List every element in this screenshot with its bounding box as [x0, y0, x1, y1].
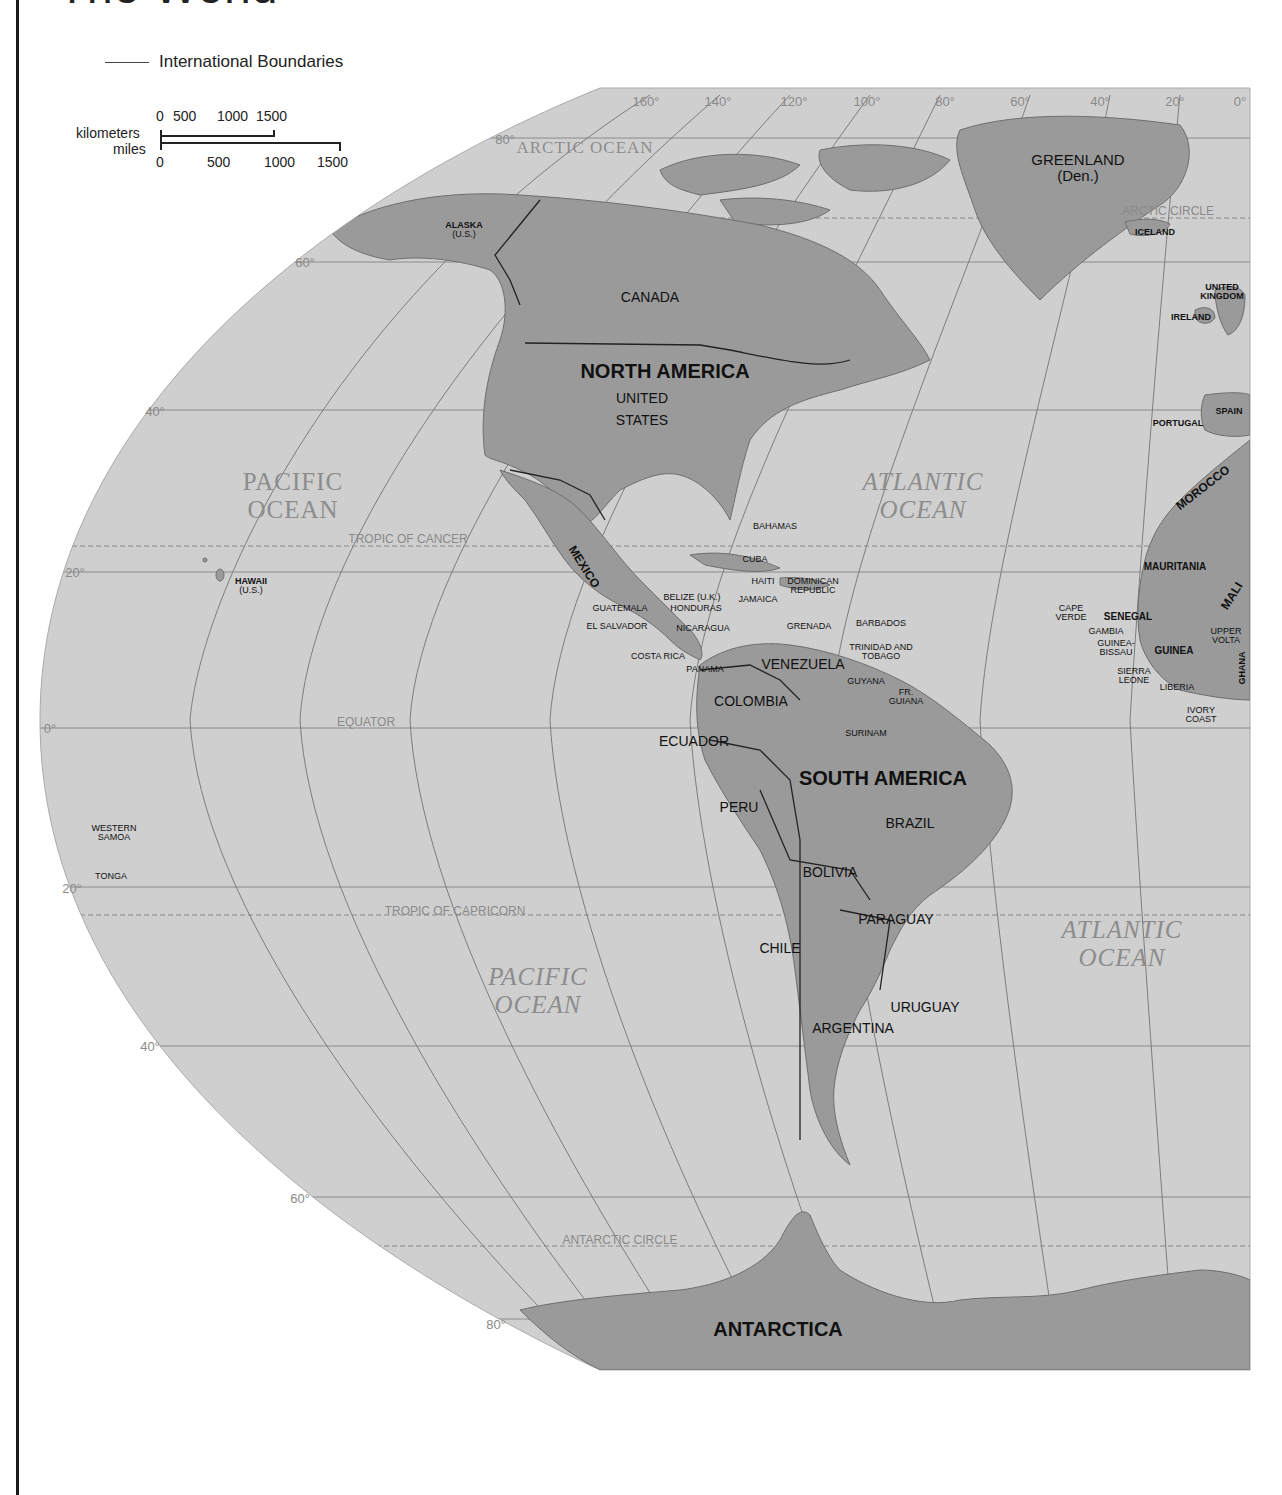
lon-label: 60° [1010, 94, 1030, 109]
ocean-line: OCEAN [862, 495, 983, 523]
lon-label: 100° [854, 94, 881, 109]
lon-label: 40° [1090, 94, 1110, 109]
north-america-label: NORTH AMERICA [580, 361, 749, 382]
haiti-label: HAITI [751, 577, 774, 586]
atlantic-ocean-north-label: ATLANTICOCEAN [862, 468, 983, 523]
ocean-line: ATLANTIC [1061, 916, 1182, 944]
south-america-label: SOUTH AMERICA [799, 768, 967, 789]
uruguay-label: URUGUAY [891, 1000, 960, 1015]
venezuela-label: VENEZUELA [761, 657, 844, 672]
french-guiana-label: FR.GUIANA [889, 688, 924, 707]
paraguay-label: PARAGUAY [858, 912, 934, 927]
el-salvador-label: EL SALVADOR [587, 622, 648, 631]
costa-rica-label: COSTA RICA [631, 652, 685, 661]
map-canvas [0, 0, 1282, 1495]
portugal-label: PORTUGAL [1153, 419, 1204, 428]
barbados-label: BARBADOS [856, 619, 906, 628]
jamaica-label: JAMAICA [738, 595, 777, 604]
label-line: KINGDOM [1200, 292, 1244, 301]
united-kingdom-label: UNITEDKINGDOM [1200, 283, 1244, 302]
peru-label: PERU [720, 800, 759, 815]
united-states-label: UNITEDSTATES [616, 387, 668, 432]
guyana-label: GUYANA [847, 677, 884, 686]
label-line: VOLTA [1210, 636, 1241, 645]
label-line: (U.S.) [235, 586, 267, 595]
label-line: BISSAU [1097, 648, 1135, 657]
bolivia-label: BOLIVIA [803, 865, 857, 880]
ivory-coast-label: IVORYCOAST [1185, 706, 1216, 725]
greenland-label: GREENLAND(Den.) [1031, 152, 1124, 184]
lon-label: 160° [633, 94, 660, 109]
ocean-line: OCEAN [488, 990, 588, 1018]
ocean-line: PACIFIC [488, 963, 588, 991]
lat-label: 80° [486, 1317, 506, 1332]
colombia-label: COLOMBIA [714, 694, 788, 709]
label-line: VERDE [1055, 613, 1086, 622]
cape-verde-label: CAPEVERDE [1055, 604, 1086, 623]
arctic-circle-label: ARCTIC CIRCLE [1122, 204, 1214, 218]
ocean-line: PACIFIC [243, 468, 344, 496]
lat-label: 20° [65, 565, 85, 580]
label-line: STATES [616, 409, 668, 431]
grenada-label: GRENADA [787, 622, 832, 631]
equator-label: EQUATOR [337, 715, 395, 729]
ocean-line: ATLANTIC [862, 468, 983, 496]
lon-label: 0° [1234, 94, 1246, 109]
chile-label: CHILE [759, 941, 800, 956]
lon-label: 120° [781, 94, 808, 109]
lat-label: 0° [44, 721, 56, 736]
nicaragua-label: NICARAGUA [676, 624, 730, 633]
western-samoa-label: WESTERNSAMOA [92, 824, 137, 843]
lat-label: 20° [62, 881, 82, 896]
canada-label: CANADA [621, 290, 679, 305]
sierra-leone-label: SIERRALEONE [1117, 667, 1151, 686]
senegal-label: SENEGAL [1104, 612, 1152, 623]
gambia-label: GAMBIA [1088, 627, 1123, 636]
label-line: GREENLAND [1031, 152, 1124, 168]
lon-label: 140° [705, 94, 732, 109]
panama-label: PANAMA [686, 665, 723, 674]
tonga-label: TONGA [95, 872, 127, 881]
surinam-label: SURINAM [845, 729, 887, 738]
label-line: TOBAGO [849, 652, 913, 661]
lat-label: 80° [495, 132, 515, 147]
lat-label: 60° [295, 255, 315, 270]
lat-label: 40° [145, 404, 165, 419]
guinea-bissau-label: GUINEA-BISSAU [1097, 639, 1135, 658]
label-line: COAST [1185, 715, 1216, 724]
iceland-label: ICELAND [1135, 228, 1175, 237]
arctic-ocean-label: ARCTIC OCEAN [516, 139, 653, 158]
ghana-label: GHANA [1238, 652, 1247, 685]
label-line: GUIANA [889, 697, 924, 706]
bahamas-label: BAHAMAS [753, 522, 797, 531]
ocean-line: OCEAN [1061, 943, 1182, 971]
ireland-label: IRELAND [1171, 313, 1211, 322]
belize-label: BELIZE (U.K.) [663, 593, 720, 602]
label-line: REPUBLIC [787, 586, 839, 595]
antarctic-circle-label: ANTARCTIC CIRCLE [562, 1233, 677, 1247]
argentina-label: ARGENTINA [812, 1021, 894, 1036]
tropic-of-capricorn-label: TROPIC OF CAPRICORN [385, 904, 526, 918]
label-line: (U.S.) [445, 230, 483, 239]
honduras-label: HONDURAS [670, 604, 722, 613]
pacific-ocean-north-label: PACIFICOCEAN [243, 468, 344, 523]
tropic-of-cancer-label: TROPIC OF CANCER [348, 532, 467, 546]
lon-label: 80° [935, 94, 955, 109]
lon-label: 20° [1165, 94, 1185, 109]
mauritania-label: MAURITANIA [1144, 562, 1207, 573]
ocean-line: OCEAN [243, 495, 344, 523]
label-line: SAMOA [92, 833, 137, 842]
cuba-label: CUBA [742, 555, 767, 564]
guatemala-label: GUATEMALA [593, 604, 648, 613]
dominican-republic-label: DOMINICANREPUBLIC [787, 577, 839, 596]
antarctica-label: ANTARCTICA [713, 1319, 843, 1340]
ecuador-label: ECUADOR [659, 734, 729, 749]
spain-label: SPAIN [1216, 407, 1243, 416]
liberia-label: LIBERIA [1160, 683, 1195, 692]
alaska-label: ALASKA(U.S.) [445, 221, 483, 240]
label-line: (Den.) [1031, 168, 1124, 184]
label-line: LEONE [1117, 676, 1151, 685]
pacific-ocean-south-label: PACIFICOCEAN [488, 963, 588, 1018]
label-line: UNITED [616, 387, 668, 409]
hawaii-label: HAWAII(U.S.) [235, 577, 267, 596]
